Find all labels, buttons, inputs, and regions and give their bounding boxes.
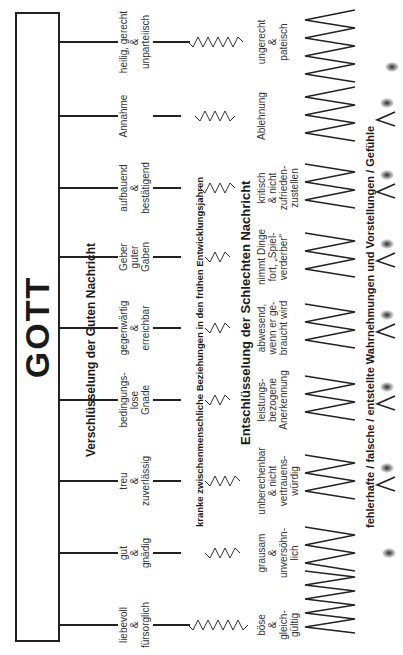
large-zigzag-icon [300, 2, 360, 82]
bad-attribute: kritisch& nichtzufrieden-zustellen [256, 166, 300, 210]
small-zigzag-icon [205, 251, 245, 263]
bad-attribute: Ablehnung [256, 92, 267, 140]
good-attribute: liebevoll&fürsorglich [118, 602, 151, 648]
bad-attribute: ungerecht&pateisch [256, 20, 289, 64]
large-zigzag-icon [300, 158, 360, 208]
bad-attribute: nimmt Dingefort, „Spiel-verderber" [256, 229, 289, 285]
good-attribute: gut&gnädig [118, 538, 151, 568]
connector-line [153, 624, 190, 626]
connector-line [153, 399, 181, 401]
good-attribute: Annahme [118, 95, 129, 138]
good-attribute: GeberguterGaben [118, 242, 151, 272]
connector-line [60, 552, 118, 554]
small-zigzag-icon [205, 322, 245, 334]
bad-attribute: unberechenbar& nichtvertrauens-würdig [256, 447, 300, 514]
god-box: GOTT [15, 12, 60, 642]
small-zigzag-icon [200, 182, 245, 194]
connector-line [60, 115, 118, 117]
smudge [385, 62, 399, 72]
good-attribute: bedingungs-loseGnade [118, 372, 151, 427]
connector-line [153, 480, 181, 482]
small-zigzag-icon [188, 36, 250, 48]
large-zigzag-icon [300, 227, 360, 277]
good-attribute: aufbauend&bestätigend [118, 162, 151, 214]
connector-line [153, 187, 181, 189]
connector-line [60, 41, 118, 43]
diagram-stage: GOTT Verschlüsselung der Guten Nachricht… [0, 0, 403, 655]
bad-attribute: grausam&unversöhn-lich [256, 528, 300, 578]
large-zigzag-icon [300, 449, 360, 499]
smudge [382, 548, 396, 558]
bad-attribute: abwesend,wenn er ge-braucht wird [256, 301, 289, 355]
good-attribute: treu&zuverlässig [118, 456, 151, 506]
connector-line [153, 41, 190, 43]
connector-line [60, 399, 118, 401]
small-zigzag-icon [188, 619, 250, 631]
connector-line [60, 327, 118, 329]
good-attribute: gegenwärtig&erreichbar [118, 301, 151, 355]
good-attribute: heilig, gerecht&unparteiisch [118, 11, 151, 73]
smudge [380, 170, 394, 180]
heading-relationships: kranke zwischenmenschliche Beziehungen i… [194, 177, 205, 527]
large-zigzag-icon [300, 81, 360, 141]
connector-line [153, 327, 181, 329]
broken-zigzag-icon [375, 318, 400, 338]
smudge [380, 239, 394, 249]
large-zigzag-icon [300, 298, 360, 348]
small-zigzag-icon [195, 110, 245, 122]
large-zigzag-icon [300, 370, 360, 420]
connector-line [60, 256, 118, 258]
large-zigzag-icon [300, 521, 360, 571]
heading-good-news: Verschlüsselung der Guten Nachricht [84, 241, 98, 459]
smudge [380, 98, 394, 108]
broken-zigzag-icon [375, 178, 400, 198]
connector-line [153, 115, 181, 117]
broken-zigzag-icon [375, 106, 400, 126]
god-title: GOTT [18, 276, 57, 378]
broken-zigzag-icon [375, 471, 400, 491]
connector-line [60, 480, 118, 482]
bad-attribute: böse&gleich-gültig [256, 610, 300, 639]
connector-line [60, 624, 118, 626]
small-zigzag-icon [205, 547, 245, 559]
smudge [380, 310, 394, 320]
connector-line [153, 256, 181, 258]
smudge [380, 382, 394, 392]
smudge [380, 463, 394, 473]
small-zigzag-icon [205, 394, 245, 406]
large-zigzag-icon [300, 563, 360, 633]
connector-line [60, 187, 118, 189]
broken-zigzag-icon [375, 247, 400, 267]
broken-zigzag-icon [375, 390, 400, 410]
small-zigzag-icon [205, 475, 245, 487]
bad-attribute: leistungs-bezogeneAnerkennung [256, 370, 289, 430]
connector-line [153, 552, 181, 554]
